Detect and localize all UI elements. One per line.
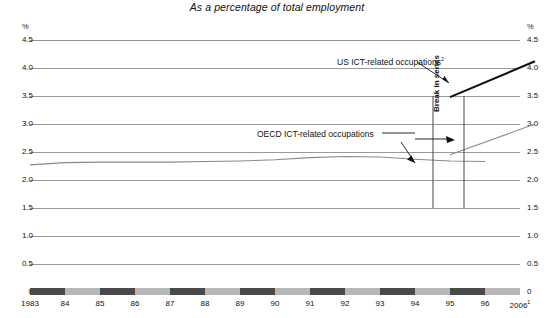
x-tick-93: 93: [376, 299, 385, 308]
x-axis-band: [30, 288, 520, 295]
break-arrowhead: [446, 136, 455, 143]
x-tick-88: 88: [201, 299, 210, 308]
x-tick-89: 89: [236, 299, 245, 308]
x-axis-segment: [135, 288, 170, 295]
x-tick-95: 95: [446, 299, 455, 308]
us-annotation-arrowhead: [443, 76, 450, 83]
x-tick-94: 94: [411, 299, 420, 308]
x-axis-segment: [30, 288, 65, 295]
x-tick-86: 86: [131, 299, 140, 308]
x-axis-segment: [415, 288, 450, 295]
plot-area: [0, 0, 554, 318]
x-axis-segment: [275, 288, 310, 295]
x-tick-91: 91: [306, 299, 315, 308]
annotation-break-in-series: Break in series: [432, 55, 441, 112]
x-tick-85: 85: [96, 299, 105, 308]
x-tick-87: 87: [166, 299, 175, 308]
x-tick-96: 96: [481, 299, 490, 308]
series-oecd-pre-break: [30, 157, 485, 165]
annotation-us-superscript: 2: [441, 56, 444, 62]
series-oecd-post-break: [450, 124, 535, 155]
x-axis-segment: [65, 288, 100, 295]
x-tick-84: 84: [61, 299, 70, 308]
x-axis-segment: [205, 288, 240, 295]
chart-container: As a percentage of total employment % % …: [0, 0, 554, 318]
x-axis-segment: [485, 288, 520, 295]
x-axis-segment: [170, 288, 205, 295]
annotation-us-text: US ICT-related occupations: [337, 57, 441, 67]
x-tick-1983: 1983: [21, 299, 39, 308]
x-axis-segment: [345, 288, 380, 295]
series-us-post-break: [450, 61, 535, 97]
x-axis-segment: [240, 288, 275, 295]
x-axis-segment: [100, 288, 135, 295]
annotation-us-label: US ICT-related occupations2: [337, 56, 444, 67]
x-tick-superscript: 1: [527, 299, 530, 305]
annotation-oecd-label: OECD ICT-related occupations: [257, 129, 374, 139]
x-tick-90: 90: [271, 299, 280, 308]
x-axis-segment: [310, 288, 345, 295]
x-axis-segment: [450, 288, 485, 295]
x-tick-2006: 20061: [510, 299, 531, 310]
x-tick-92: 92: [341, 299, 350, 308]
x-axis-segment: [380, 288, 415, 295]
